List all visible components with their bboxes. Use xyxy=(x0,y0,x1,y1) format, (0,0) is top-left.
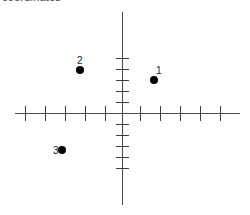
y-axis-tick xyxy=(116,102,129,103)
x-axis-tick xyxy=(65,106,66,121)
y-axis-tick xyxy=(116,168,129,169)
y-axis-tick xyxy=(116,80,129,81)
data-point-3[interactable] xyxy=(58,146,66,154)
x-axis-tick xyxy=(85,106,86,121)
x-axis-tick xyxy=(140,106,141,121)
y-axis-tick xyxy=(116,157,129,158)
y-axis-tick xyxy=(116,69,129,70)
data-point-label-1: 1 xyxy=(156,66,162,76)
figure-title: coordinates xyxy=(2,0,61,3)
x-axis-tick xyxy=(220,106,221,121)
x-axis-tick xyxy=(200,106,201,121)
x-axis-tick xyxy=(180,106,181,121)
x-axis-line xyxy=(15,113,240,114)
data-point-label-2: 2 xyxy=(77,56,83,66)
y-axis-tick xyxy=(116,91,129,92)
data-point-1[interactable] xyxy=(150,76,158,84)
data-point-label-3: 3 xyxy=(53,146,59,156)
x-axis-tick xyxy=(105,106,106,121)
y-axis-tick xyxy=(116,124,129,125)
y-axis-tick xyxy=(116,135,129,136)
x-axis-tick xyxy=(25,106,26,121)
x-axis-tick xyxy=(45,106,46,121)
y-axis-tick xyxy=(116,146,129,147)
coordinate-plane-figure: coordinates 123 xyxy=(0,0,250,215)
data-point-2[interactable] xyxy=(76,66,84,74)
x-axis-tick xyxy=(160,106,161,121)
y-axis-line xyxy=(122,12,123,205)
y-axis-tick xyxy=(116,58,129,59)
